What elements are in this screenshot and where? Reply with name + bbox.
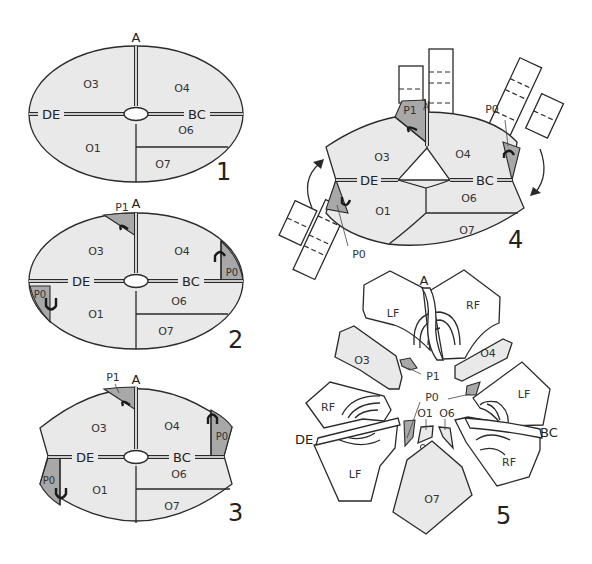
panel-2: A DE BC O3 O4 O1 O6 O7 P1 P0 P0 2 [29, 196, 243, 354]
panel-5-label-a: A [420, 273, 429, 288]
panel-2-region-o1: O1 [88, 308, 104, 321]
panel-4-region-o6: O6 [461, 192, 477, 205]
panel-2-region-o7: O7 [158, 325, 174, 338]
panel-3-center-opening [124, 451, 148, 464]
panel-5-label-o1: O1 [417, 407, 433, 420]
panel-2-region-o6: O6 [171, 295, 187, 308]
panel-5: A DE BC O3 O4 O1 O6 O7 P1 P0 LF RF LF RF… [295, 270, 558, 534]
panel-5-label-lf-right: LF [518, 388, 530, 401]
panel-5-label-o6: O6 [439, 407, 455, 420]
panel-5-label-bc: BC [540, 425, 558, 440]
panel-1-region-o1: O1 [85, 142, 101, 155]
panel-4-number: 4 [508, 226, 523, 254]
panel-5-label-o4: O4 [480, 347, 496, 360]
panel-3-label-bc: BC [173, 450, 191, 465]
panel-4-region-o3: O3 [374, 151, 390, 164]
panel-2-label-de: DE [72, 274, 90, 289]
panel-5-flap-rf-left [306, 382, 391, 428]
panel-4-flap [399, 66, 423, 103]
panel-1: A DE BC O3 O4 O1 O6 O7 1 [29, 30, 243, 186]
panel-2-label-a: A [132, 196, 141, 211]
panel-1-region-o3: O3 [83, 78, 99, 91]
panel-5-label-lf-top: LF [387, 307, 399, 320]
diagram-canvas: A DE BC O3 O4 O1 O6 O7 1 A DE BC O3 O4 O… [0, 0, 592, 564]
panel-3-marker-p0-left: P0 [43, 475, 55, 486]
panel-3-region-o3: O3 [91, 422, 107, 435]
panel-2-region-o3: O3 [88, 245, 104, 258]
panel-2-marker-p1: P1 [115, 201, 129, 214]
panel-3-label-de: DE [76, 450, 94, 465]
panel-2-marker-p0-right: P0 [226, 267, 238, 278]
panel-4-marker-p1: P1 [403, 104, 417, 117]
panel-3-marker-p1: P1 [106, 371, 120, 384]
panel-3-number: 3 [228, 499, 243, 527]
panel-1-label-de: DE [42, 107, 60, 122]
panel-3-marker-p0-right: P0 [216, 431, 228, 442]
panel-3-label-a: A [132, 372, 141, 387]
panel-1-label-bc: BC [188, 107, 206, 122]
panel-5-region-o6 [439, 427, 453, 448]
panel-3: A DE BC O3 O4 O1 O6 O7 P1 P0 P0 3 [40, 371, 243, 527]
panel-4-region-o4: O4 [455, 148, 471, 161]
panel-5-region-o1 [418, 426, 433, 443]
panel-4-label-bc: BC [476, 173, 494, 188]
panel-2-region-o4: O4 [174, 245, 190, 258]
panel-5-label-lf-left: LF [349, 468, 361, 481]
panel-1-number: 1 [216, 158, 231, 186]
panel-2-center-opening [124, 275, 148, 288]
panel-4-marker-p0-right: P0 [485, 103, 499, 116]
panel-4-rotate-arrow-left [308, 163, 321, 208]
panel-3-region-o7: O7 [164, 500, 180, 513]
panel-5-label-p0: P0 [425, 391, 439, 404]
panel-1-region-o6: O6 [178, 124, 194, 137]
panel-5-label-o7: O7 [424, 493, 440, 506]
panel-4-region-o1: O1 [375, 205, 391, 218]
panel-5-label-o3: O3 [354, 354, 370, 367]
panel-3-region-o4: O4 [164, 420, 180, 433]
panel-5-number: 5 [496, 502, 511, 530]
panel-5-flap-lf-right [473, 362, 550, 426]
panel-4-marker-p0-left: P0 [352, 248, 366, 261]
panel-5-label-rf-right: RF [502, 456, 516, 469]
panel-1-region-o4: O4 [174, 82, 190, 95]
panel-4-label-a: A [423, 102, 430, 112]
panel-5-label-de: DE [295, 432, 313, 447]
panel-5-label-p1: P1 [426, 370, 440, 383]
panel-5-marker-p0-right-region [466, 382, 480, 395]
panel-2-number: 2 [228, 326, 243, 354]
panel-4-label-de: DE [360, 173, 378, 188]
panel-4-region-o7: O7 [459, 224, 475, 237]
panel-4: DE BC A O3 O4 O1 O6 O7 P1 P0 P0 4 [279, 49, 563, 280]
panel-5-label-rf-top: RF [466, 299, 480, 312]
panel-1-label-a: A [132, 30, 141, 45]
panel-5-region-o7 [393, 441, 472, 534]
panel-3-region-o6: O6 [171, 468, 187, 481]
panel-1-region-o7: O7 [155, 158, 171, 171]
panel-1-center-opening [124, 108, 148, 121]
panel-4-rotate-arrow-right [535, 149, 544, 193]
panel-3-region-o1: O1 [92, 484, 108, 497]
panel-2-label-bc: BC [182, 274, 200, 289]
panel-2-marker-p0-left: P0 [34, 289, 46, 300]
panel-5-flap-rf-top [431, 270, 500, 359]
panel-5-marker-p0-left-region [404, 420, 415, 446]
panel-5-label-rf-left: RF [321, 401, 335, 414]
